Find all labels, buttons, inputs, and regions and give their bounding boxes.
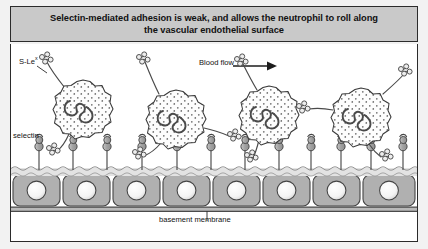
title-line-1: Selectin-mediated adhesion is weak, and … <box>50 13 378 23</box>
vessel-illustration <box>11 44 417 240</box>
slex-label-superscript: x <box>35 55 38 61</box>
endothelium-layer <box>11 167 417 206</box>
endothelial-cell <box>63 175 110 206</box>
diagram-panel: S-Lex selectin Blood flow basement membr… <box>10 44 418 242</box>
slex-label: S-Lex <box>19 58 38 66</box>
endothelial-cells <box>13 175 415 206</box>
endothelial-cell <box>13 175 60 206</box>
slex-label-text: S-Le <box>19 57 35 66</box>
luminal-surface <box>11 167 417 176</box>
figure-title-banner: Selectin-mediated adhesion is weak, and … <box>10 6 418 42</box>
endothelial-cell <box>313 175 360 206</box>
page-title: Selectin-mediated adhesion is weak, and … <box>42 12 386 37</box>
blood-flow-label: Blood flow <box>199 59 234 67</box>
figure-container: Selectin-mediated adhesion is weak, and … <box>0 0 428 249</box>
endothelial-cell <box>113 175 160 206</box>
endothelial-cell <box>363 175 415 206</box>
selectin-label: selectin <box>13 132 39 140</box>
diagram-scene <box>11 44 417 241</box>
title-line-2: the vascular endothelial surface <box>144 25 284 35</box>
endothelial-cell <box>163 175 210 206</box>
endothelial-cell <box>213 175 260 206</box>
basement-membrane-label: basement membrane <box>159 216 231 224</box>
endothelial-cell <box>263 175 310 206</box>
